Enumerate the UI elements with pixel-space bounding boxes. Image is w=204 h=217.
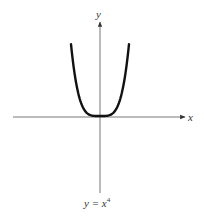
equation-caption: y = x4 bbox=[84, 197, 110, 209]
graph-canvas bbox=[0, 0, 204, 217]
x-axis-label: x bbox=[188, 112, 193, 123]
caption-base: y = x bbox=[84, 197, 107, 209]
y-axis-label: y bbox=[96, 9, 101, 20]
caption-exponent: 4 bbox=[107, 196, 111, 204]
